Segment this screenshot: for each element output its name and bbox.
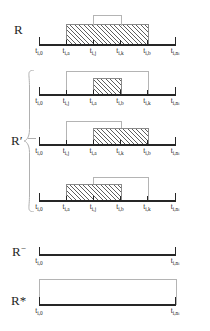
hatched-interval-box — [93, 78, 122, 95]
axis-tick-label-subscript: i,b — [145, 150, 150, 156]
axis-tick-label-subscript: i,0 — [37, 206, 42, 212]
row-label-rstar: R* — [11, 293, 26, 309]
timeline-axis — [39, 94, 175, 96]
axis-tick-label-subscript: i,k — [145, 100, 150, 106]
axis-tick-label-subscript: i,j — [65, 100, 69, 106]
axis-tick-label-subscript: i,j — [92, 50, 96, 56]
axis-tick-label-subscript-2: i — [178, 311, 179, 316]
axis-tick — [147, 196, 148, 202]
hatched-interval-box — [66, 24, 149, 45]
axis-tick-label-subscript: i,0 — [37, 260, 42, 266]
axis-tick-label: ti,ni — [171, 258, 180, 265]
axis-tick — [39, 247, 40, 256]
axis-tick — [147, 40, 148, 46]
axis-tick — [39, 87, 40, 96]
timeline-axis — [39, 304, 175, 306]
row-label-superscript: − — [21, 243, 26, 253]
row-label-rminus: R− — [12, 243, 26, 260]
axis-tick-label-subscript: i,b — [118, 206, 123, 212]
axis-tick-label-subscript: i,k — [145, 206, 150, 212]
axis-tick-label: ti,j — [90, 204, 96, 211]
axis-tick-label-subscript: i,a — [91, 150, 96, 156]
hatched-interval-box — [93, 128, 149, 145]
axis-tick — [175, 193, 176, 202]
timeline-axis — [39, 200, 175, 202]
brace-stem — [28, 138, 36, 139]
axis-tick-label-subscript-2: i — [178, 101, 179, 106]
axis-tick — [93, 40, 94, 46]
row-label-r: R — [14, 22, 23, 38]
axis-tick-label: ti,b — [143, 48, 150, 55]
axis-tick-label-subscript-2: i — [178, 261, 179, 266]
axis-tick — [120, 90, 121, 96]
axis-tick-label: ti,0 — [35, 258, 42, 265]
axis-tick — [66, 196, 67, 202]
row-label-rprime-2: R′ — [11, 133, 23, 149]
axis-tick — [175, 247, 176, 256]
axis-tick-label: ti,ni — [171, 308, 180, 315]
axis-tick — [175, 137, 176, 146]
axis-tick-label: ti,b — [116, 204, 123, 211]
axis-tick-label: ti,k — [143, 204, 150, 211]
axis-tick — [120, 140, 121, 146]
timeline-axis — [39, 44, 175, 46]
axis-tick — [147, 140, 148, 146]
axis-tick-label: ti,a — [62, 48, 69, 55]
axis-tick — [93, 90, 94, 96]
axis-tick-label-subscript-2: i — [178, 207, 179, 212]
axis-tick-label-subscript: i,b — [118, 100, 123, 106]
axis-tick — [39, 297, 40, 306]
axis-tick-label: ti,a — [89, 148, 96, 155]
axis-tick-label-subscript: i,0 — [37, 310, 42, 316]
axis-tick-label-subscript: i,0 — [37, 150, 42, 156]
axis-tick — [175, 37, 176, 46]
hatched-interval-box — [66, 184, 122, 201]
axis-tick-label: ti,j — [63, 148, 69, 155]
axis-tick — [175, 297, 176, 306]
axis-tick-label: ti,0 — [35, 308, 42, 315]
axis-tick-label-subscript: i,j — [65, 150, 69, 156]
axis-tick-label: ti,0 — [35, 204, 42, 211]
axis-tick — [120, 196, 121, 202]
axis-tick — [175, 87, 176, 96]
outlined-interval-box — [93, 15, 122, 26]
axis-tick-label: ti,ni — [171, 98, 180, 105]
axis-tick-label-subscript: i,a — [91, 100, 96, 106]
axis-tick-label: ti,a — [62, 204, 69, 211]
axis-tick-label-subscript-2: i — [178, 51, 179, 56]
axis-tick-label-subscript: i,a — [64, 50, 69, 56]
axis-tick-label: ti,k — [116, 148, 123, 155]
axis-tick-label: ti,k — [116, 48, 123, 55]
axis-tick-label: ti,a — [89, 98, 96, 105]
axis-tick — [120, 40, 121, 46]
axis-tick-label-subscript: i,0 — [37, 100, 42, 106]
axis-tick-label: ti,ni — [171, 48, 180, 55]
axis-tick-label-subscript: i,0 — [37, 50, 42, 56]
axis-tick-label: ti,0 — [35, 98, 42, 105]
axis-tick-label: ti,b — [143, 148, 150, 155]
axis-tick-label-subscript: i,k — [118, 50, 123, 56]
axis-tick-label: ti,ni — [171, 204, 180, 211]
axis-tick-label-subscript: i,k — [118, 150, 123, 156]
axis-tick — [93, 196, 94, 202]
axis-tick-label: ti,j — [63, 98, 69, 105]
axis-tick — [66, 90, 67, 96]
axis-tick-label: ti,b — [116, 98, 123, 105]
axis-tick-label: ti,j — [90, 48, 96, 55]
outlined-interval-box — [39, 279, 177, 305]
axis-tick-label: ti,0 — [35, 148, 42, 155]
axis-tick-label-subscript: i,a — [64, 206, 69, 212]
brace-shape — [24, 70, 34, 212]
axis-tick-label: ti,ni — [171, 148, 180, 155]
axis-tick-label-subscript: i,b — [145, 50, 150, 56]
axis-tick — [93, 140, 94, 146]
axis-tick — [66, 40, 67, 46]
axis-tick — [39, 193, 40, 202]
axis-tick — [39, 37, 40, 46]
axis-tick — [39, 137, 40, 146]
axis-tick — [66, 140, 67, 146]
axis-tick-label: ti,0 — [35, 48, 42, 55]
axis-tick-label-subscript-2: i — [178, 151, 179, 156]
axis-tick — [147, 90, 148, 96]
timeline-axis — [39, 144, 175, 146]
